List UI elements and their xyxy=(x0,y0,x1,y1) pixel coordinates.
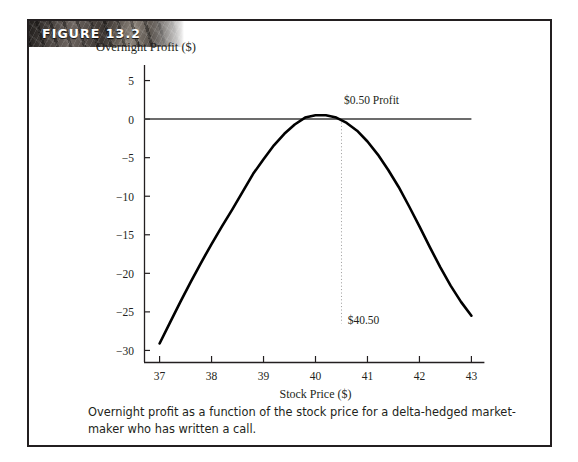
y-tick-label: −20 xyxy=(116,268,134,280)
profit-annotation: $0.50 Profit xyxy=(344,94,400,106)
stock-price-annotation: $40.50 xyxy=(348,314,380,326)
y-tick-label: −15 xyxy=(116,229,134,241)
y-tick-label: 5 xyxy=(128,75,134,87)
y-tick-label: −5 xyxy=(122,152,134,164)
x-tick-label: 41 xyxy=(362,370,374,382)
y-tick-label: −10 xyxy=(116,191,134,203)
y-tick-label: −30 xyxy=(116,345,134,357)
chart-plot-area: 50−5−10−15−20−25−3037383940414243Overnig… xyxy=(29,21,554,449)
x-tick-label: 42 xyxy=(414,370,426,382)
profit-curve-chart: 50−5−10−15−20−25−3037383940414243Overnig… xyxy=(29,21,554,449)
x-tick-label: 37 xyxy=(154,370,166,382)
y-tick-label: −25 xyxy=(116,306,134,318)
x-tick-label: 43 xyxy=(466,370,478,382)
profit-curve xyxy=(160,115,472,343)
y-tick-label: 0 xyxy=(128,114,134,126)
x-tick-label: 38 xyxy=(206,370,218,382)
figure-caption: Overnight profit as a function of the st… xyxy=(88,404,528,437)
x-tick-label: 40 xyxy=(310,370,322,382)
figure-frame: FIGURE 13.2 50−5−10−15−20−25−30373839404… xyxy=(27,19,552,447)
x-axis-title: Stock Price ($) xyxy=(280,387,352,401)
y-axis-title: Overnight Profit ($) xyxy=(96,40,196,54)
x-tick-label: 39 xyxy=(258,370,270,382)
